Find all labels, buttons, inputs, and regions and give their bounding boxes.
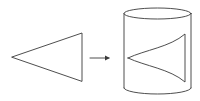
cylinder [124, 8, 191, 94]
diagram-canvas [0, 0, 200, 101]
cylinder-top-ellipse [124, 8, 191, 19]
warped-triangle [128, 34, 185, 82]
flat-triangle [12, 33, 82, 81]
cylinder-bottom-arc [124, 88, 191, 94]
